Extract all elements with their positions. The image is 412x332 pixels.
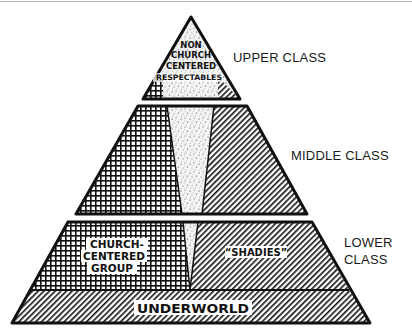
upper-class-label: UPPER CLASS <box>233 49 326 66</box>
middle-class-label: MIDDLE CLASS <box>291 147 389 164</box>
middle-tier <box>76 106 307 214</box>
lower-tier: CHURCH- CENTERED GROUP “SHADIES” UNDERWO… <box>12 222 370 323</box>
church-centered-label-2: CENTERED <box>83 250 145 262</box>
upper-tier: NON CHURCH CENTERED RESPECTABLES <box>143 17 240 99</box>
church-centered-label-1: CHURCH- <box>90 238 144 250</box>
church-centered-label-3: GROUP <box>91 262 133 274</box>
class-pyramid-diagram: NON CHURCH CENTERED RESPECTABLES CHURCH-… <box>0 0 412 332</box>
shadies-label: “SHADIES” <box>225 247 288 258</box>
lower-class-label-line2: CLASS <box>344 251 393 268</box>
lower-class-label: LOWER CLASS <box>344 234 393 268</box>
respectables-label-1: NON <box>180 40 201 50</box>
underworld-label: UNDERWORLD <box>137 301 249 316</box>
respectables-label-3: CENTERED <box>166 61 216 71</box>
respectables-label-4: RESPECTABLES <box>156 73 222 82</box>
respectables-label-2: CHURCH <box>171 50 211 60</box>
lower-class-label-line1: LOWER <box>344 234 393 251</box>
